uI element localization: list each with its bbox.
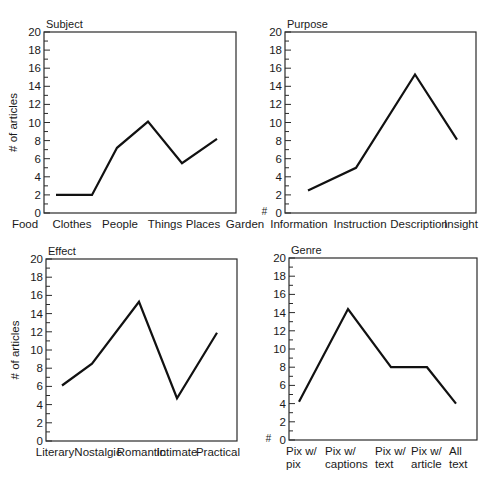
x-category-label: Description <box>390 218 448 230</box>
x-category-label: Pix w/ <box>375 445 406 457</box>
data-line <box>299 309 456 404</box>
y-tick-label: 14 <box>273 307 286 319</box>
data-line <box>56 122 217 195</box>
x-category-label: Practical <box>196 446 240 458</box>
plot-frame <box>289 258 477 440</box>
y-tick-label: 4 <box>280 398 287 410</box>
y-tick-label: 16 <box>273 288 286 300</box>
y-axis-hash-mark: # <box>265 433 271 444</box>
x-category-label: Instruction <box>333 218 386 230</box>
y-tick-label: 4 <box>37 399 44 411</box>
y-tick-label: 2 <box>35 189 41 201</box>
y-tick-label: 14 <box>30 308 43 320</box>
y-tick-label: 14 <box>28 80 41 92</box>
plot-frame <box>44 32 236 213</box>
y-tick-label: 20 <box>30 253 43 265</box>
y-tick-label: 12 <box>30 326 43 338</box>
plot-frame <box>285 32 476 213</box>
y-tick-label: 4 <box>35 171 42 183</box>
y-tick-label: 6 <box>276 153 282 165</box>
y-tick-label: 4 <box>276 171 283 183</box>
y-axis-label: # of articles <box>9 320 21 379</box>
y-tick-label: 8 <box>276 135 282 147</box>
y-tick-label: 2 <box>280 416 286 428</box>
x-category-label: Pix w/ <box>325 445 356 457</box>
x-category-label: Nostalgic <box>74 446 122 458</box>
y-tick-label: 16 <box>28 62 41 74</box>
chart-purpose: Purpose02468101214161820#InformationInst… <box>261 18 478 230</box>
x-category-label: article <box>411 458 442 470</box>
x-category-label: Pix w/ <box>286 445 317 457</box>
chart-genre: Genre02468101214161820#Pix w/pixPix w/ca… <box>265 244 477 470</box>
x-category-label: People <box>102 218 138 230</box>
y-tick-label: 2 <box>276 189 282 201</box>
y-tick-label: 12 <box>28 98 41 110</box>
y-tick-label: 10 <box>273 343 286 355</box>
y-tick-label: 8 <box>37 362 43 374</box>
chart-title: Effect <box>48 245 76 257</box>
chart-title: Subject <box>46 18 83 30</box>
chart-title: Genre <box>291 244 322 256</box>
x-category-label: Literary <box>36 446 75 458</box>
x-category-label: pix <box>286 458 301 470</box>
x-category-label: Food <box>12 218 38 230</box>
y-tick-label: 18 <box>273 270 286 282</box>
x-category-label: Garden <box>226 218 264 230</box>
y-tick-label: 18 <box>269 44 282 56</box>
y-tick-label: 2 <box>37 417 43 429</box>
x-category-label: Things <box>148 218 183 230</box>
y-tick-label: 6 <box>35 153 41 165</box>
x-category-label: Intimate <box>157 446 198 458</box>
x-category-label: captions <box>325 458 368 470</box>
y-tick-label: 8 <box>280 361 286 373</box>
x-category-label: Insight <box>444 218 479 230</box>
y-tick-label: 16 <box>269 62 282 74</box>
x-category-label: Pix w/ <box>411 445 442 457</box>
chart-title: Purpose <box>287 18 328 30</box>
y-tick-label: 10 <box>269 117 282 129</box>
y-tick-label: 14 <box>269 80 282 92</box>
y-tick-label: 12 <box>269 98 282 110</box>
y-tick-label: 6 <box>280 379 286 391</box>
y-tick-label: 18 <box>30 271 43 283</box>
x-category-label: Clothes <box>53 218 92 230</box>
y-tick-label: 12 <box>273 325 286 337</box>
plot-frame <box>46 259 237 441</box>
x-category-label: text <box>375 458 394 470</box>
y-tick-label: 6 <box>37 380 43 392</box>
y-tick-label: 20 <box>273 252 286 264</box>
y-tick-label: 8 <box>35 135 41 147</box>
y-tick-label: 10 <box>28 117 41 129</box>
y-tick-label: 16 <box>30 289 43 301</box>
x-category-label: text <box>449 458 468 470</box>
chart-subject: Subject02468101214161820# of articlesFoo… <box>7 18 264 230</box>
y-tick-label: 10 <box>30 344 43 356</box>
y-tick-label: 20 <box>28 26 41 38</box>
x-category-label: Places <box>186 218 221 230</box>
data-line <box>308 75 457 191</box>
y-axis-hash-mark: # <box>261 206 267 217</box>
y-axis-label: # of articles <box>7 93 19 152</box>
data-line <box>62 302 217 398</box>
charts-figure: Subject02468101214161820# of articlesFoo… <box>0 0 494 481</box>
x-category-label: Information <box>270 218 328 230</box>
chart-effect: Effect02468101214161820# of articlesLite… <box>9 245 240 458</box>
y-tick-label: 18 <box>28 44 41 56</box>
x-category-label: All <box>449 445 462 457</box>
y-tick-label: 20 <box>269 26 282 38</box>
